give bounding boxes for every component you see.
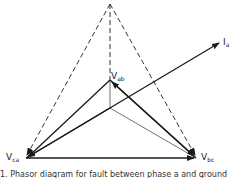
figure-caption: 1. Phasor diagram for fault between phas… <box>0 171 227 178</box>
label-vbc: Vbc <box>201 153 214 163</box>
solid-phasors <box>26 43 219 158</box>
label-vab: Vab <box>111 72 125 82</box>
label-vca: Vca <box>6 153 19 163</box>
phasor-diagram <box>0 0 233 178</box>
label-ia: Ia <box>223 38 229 48</box>
